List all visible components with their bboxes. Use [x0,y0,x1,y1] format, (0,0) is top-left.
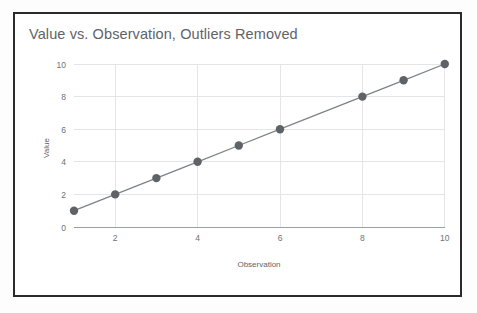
x-tick-2: 2 [113,233,118,243]
chart-card: Value vs. Observation, Outliers Removed … [13,12,462,297]
line-chart-plot: 10 8 6 4 2 0 2 4 6 8 10 Observation Valu… [15,14,460,295]
y-axis-title: Value [42,138,51,158]
y-axis-tick-labels: 10 8 6 4 2 0 [57,60,67,233]
data-point-1[interactable] [70,207,78,215]
data-point-2[interactable] [111,190,119,198]
data-point-6[interactable] [276,125,284,133]
data-point-10[interactable] [441,60,449,68]
y-tick-2: 2 [61,190,66,200]
x-tick-4: 4 [195,233,200,243]
vertical-gridlines [115,64,445,227]
x-axis-title: Observation [237,260,280,269]
data-point-9[interactable] [399,76,407,84]
y-tick-6: 6 [61,125,66,135]
data-point-5[interactable] [235,141,243,149]
series-line-value [74,64,445,211]
y-tick-8: 8 [61,92,66,102]
data-point-4[interactable] [193,158,201,166]
x-axis-tick-labels: 2 4 6 8 10 [113,233,450,243]
y-tick-4: 4 [61,157,66,167]
data-point-3[interactable] [152,174,160,182]
x-tick-6: 6 [278,233,283,243]
data-point-8[interactable] [358,92,366,100]
y-tick-10: 10 [57,60,67,70]
x-tick-10: 10 [440,233,450,243]
x-tick-8: 8 [360,233,365,243]
y-tick-0: 0 [61,223,66,233]
horizontal-gridlines [74,64,445,194]
